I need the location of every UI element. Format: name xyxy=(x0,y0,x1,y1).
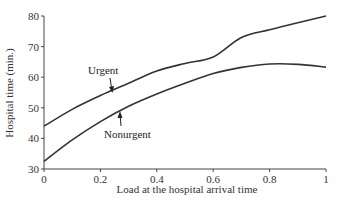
x-axis-title: Load at the hospital arrival time xyxy=(117,183,258,195)
y-tick-label: 80 xyxy=(28,10,40,22)
y-tick-label: 60 xyxy=(28,71,40,83)
nonurgent-label: Nonurgent xyxy=(104,128,151,140)
x-tick-label: 0.2 xyxy=(94,173,108,185)
x-tick-label: 1 xyxy=(323,173,329,185)
y-tick-label: 50 xyxy=(28,102,40,114)
y-tick-label: 40 xyxy=(28,132,40,144)
y-tick-label: 30 xyxy=(28,163,40,175)
urgent-label: Urgent xyxy=(88,64,118,76)
y-ticks: 304050607080 xyxy=(28,10,44,175)
x-tick-label: 0 xyxy=(41,173,47,185)
urgent-line xyxy=(44,16,326,126)
x-tick-label: 0.8 xyxy=(263,173,277,185)
nonurgent-arrow-icon xyxy=(118,111,123,126)
line-chart: 304050607080 00.20.40.60.81 Urgent Nonur… xyxy=(0,0,343,212)
nonurgent-line xyxy=(44,64,326,162)
y-axis-title: Hospital time (min.) xyxy=(3,48,16,138)
y-tick-label: 70 xyxy=(28,41,40,53)
